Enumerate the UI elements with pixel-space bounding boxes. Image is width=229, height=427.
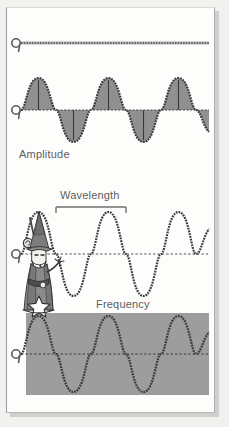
amplitude-wave — [7, 74, 215, 146]
amplitude-label: Amplitude — [19, 148, 70, 160]
flat-line-wave — [7, 30, 215, 60]
panel-flat-line — [7, 30, 215, 60]
wave-properties-diagram: Amplitude Wavelength — [0, 0, 229, 427]
diagram-card: Amplitude Wavelength — [6, 7, 215, 413]
wavelength-label: Wavelength — [60, 189, 120, 201]
origin-marker-icon — [12, 106, 20, 119]
panel-amplitude — [7, 74, 215, 146]
origin-marker-icon — [12, 39, 20, 52]
wizard-character — [17, 206, 75, 324]
origin-marker-icon — [12, 350, 20, 363]
